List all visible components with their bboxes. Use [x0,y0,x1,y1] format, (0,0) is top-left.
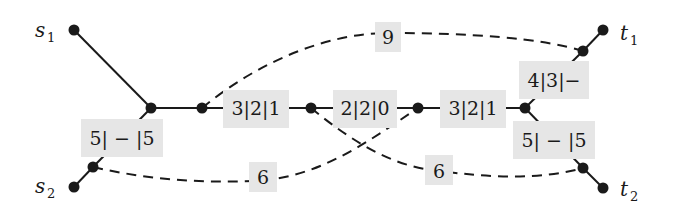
node-s1 [69,25,80,36]
svg-text:2|2|0: 2|2|0 [340,97,389,120]
edge-label-t2-branch: 5| − |5 [513,121,595,159]
node-f [88,162,99,173]
edge-label-main-1: 3|2|1 [223,90,289,128]
svg-text:1: 1 [47,30,55,45]
svg-text:5| − |5: 5| − |5 [522,129,587,152]
svg-text:2: 2 [630,189,638,204]
node-g [578,46,589,57]
edge-label-s2-junction: 5| − |5 [81,119,163,157]
node-s2 [69,182,80,193]
edge-label-dashed-top: 9 [375,22,401,52]
svg-text:9: 9 [382,26,394,48]
svg-text:6: 6 [257,166,269,188]
edge-label-dashed-bottom-right: 6 [425,155,453,185]
node-junction [146,103,157,114]
svg-text:1: 1 [630,33,638,48]
terminal-label-s2: s 2 [35,174,55,201]
terminal-label-t2: t 2 [620,177,638,204]
svg-text:4|3|−: 4|3|− [528,69,581,92]
node-c [306,103,317,114]
svg-text:t: t [620,177,629,201]
edge-label-main-3: 3|2|1 [440,90,506,128]
edge-label-t1-branch: 4|3|− [519,61,589,99]
terminal-label-s1: s 1 [35,18,55,45]
svg-text:6: 6 [433,160,445,182]
svg-text:s: s [35,174,45,198]
svg-text:2: 2 [47,186,55,201]
svg-text:3|2|1: 3|2|1 [448,97,497,120]
node-d [413,103,424,114]
node-h [578,163,589,174]
edge-label-main-2: 2|2|0 [333,90,397,128]
edge-s1-junction [74,30,151,108]
edge-label-dashed-bottom-left: 6 [249,162,277,192]
node-t2 [598,183,609,194]
svg-text:5| − |5: 5| − |5 [90,127,155,150]
node-e [520,103,531,114]
node-t1 [598,25,609,36]
flow-network-diagram: 5| − |5 3|2|1 2|2|0 3|2|1 4|3|− 5| − |5 … [0,0,679,211]
svg-text:s: s [35,18,45,42]
terminal-label-t1: t 1 [620,21,638,48]
svg-text:t: t [620,21,629,45]
node-b [197,103,208,114]
svg-text:3|2|1: 3|2|1 [231,97,280,120]
